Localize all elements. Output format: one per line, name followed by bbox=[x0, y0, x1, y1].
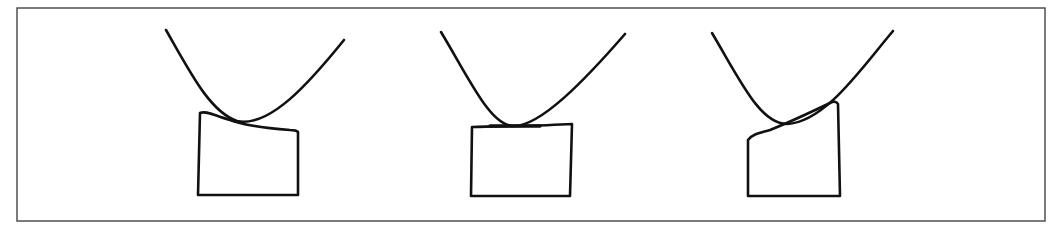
panel-left bbox=[166, 30, 344, 195]
block-right bbox=[748, 102, 840, 196]
parabola-curve-center bbox=[441, 32, 625, 126]
parabola-curve-left bbox=[166, 30, 344, 122]
diagram-canvas bbox=[0, 0, 1060, 230]
diagram-figure bbox=[0, 0, 1060, 230]
parabola-curve-right bbox=[712, 31, 893, 124]
block-left bbox=[198, 112, 298, 195]
panel-right bbox=[712, 31, 893, 196]
panel-center bbox=[441, 32, 625, 196]
block-center bbox=[471, 124, 572, 196]
